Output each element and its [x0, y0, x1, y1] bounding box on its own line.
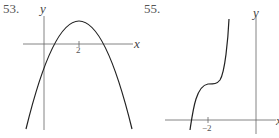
problem-53-number: 53. — [3, 1, 19, 17]
graph55-y-label: y — [253, 5, 259, 21]
graphs-canvas — [0, 0, 279, 138]
graph55-cubic — [190, 19, 229, 130]
problem-55-number: 55. — [144, 1, 160, 17]
graph53-x-label: x — [134, 36, 140, 52]
graph55-tick-label: −2 — [202, 123, 212, 133]
graph55-x-label: x — [276, 113, 279, 129]
graph53-y-label: y — [40, 1, 46, 17]
graph53-tick-label: 2 — [76, 45, 81, 55]
graph53-parabola — [26, 21, 132, 129]
